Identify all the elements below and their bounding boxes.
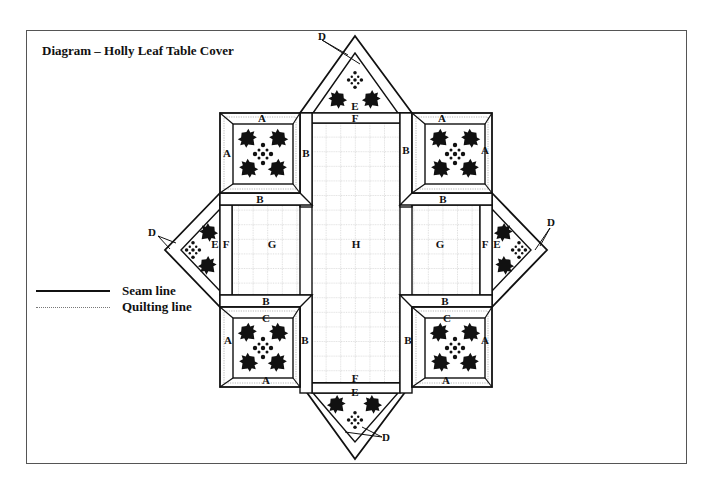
triangle-right (491, 193, 550, 307)
label-a: A (481, 334, 489, 346)
label-h: H (352, 238, 361, 250)
label-d: D (318, 30, 326, 42)
label-b: B (301, 334, 309, 346)
label-g: G (268, 238, 277, 250)
label-b: B (439, 193, 447, 205)
label-a: A (262, 374, 270, 386)
label-b: B (262, 295, 270, 307)
label-f: F (482, 238, 489, 250)
label-f: F (223, 238, 230, 250)
label-a: A (223, 147, 231, 159)
label-b: B (302, 147, 310, 159)
label-b: B (402, 144, 410, 156)
strip-b-left-top (300, 113, 312, 207)
corner-block-top-left (220, 113, 300, 193)
label-a: A (438, 112, 446, 124)
corner-block-bottom-right (412, 307, 492, 387)
strip-b-left-upper (220, 193, 312, 205)
label-e: E (351, 100, 358, 112)
label-b: B (404, 334, 412, 346)
label-d: D (382, 431, 390, 443)
table-cover-diagram: A A B B F E D A A B B F E G H G F E D D … (0, 0, 713, 490)
label-c: C (443, 312, 451, 324)
strip-b-right-top (400, 113, 412, 207)
label-a: A (481, 144, 489, 156)
side-panel-g-left (220, 205, 300, 295)
label-a: A (258, 112, 266, 124)
corner-block-top-right (412, 113, 492, 193)
label-g: G (436, 238, 445, 250)
label-e: E (351, 386, 358, 398)
label-d: D (547, 216, 555, 228)
label-e: E (493, 238, 500, 250)
label-f: F (352, 112, 359, 124)
center-panel-h (312, 123, 400, 383)
label-a: A (224, 334, 232, 346)
corner-block-bottom-left (220, 307, 300, 387)
side-panel-g-right (412, 205, 492, 295)
label-d: D (148, 226, 156, 238)
label-f: F (352, 372, 359, 384)
label-b: B (441, 295, 449, 307)
triangle-left (158, 193, 221, 307)
label-e: E (211, 238, 218, 250)
label-a: A (442, 374, 450, 386)
label-c: C (262, 312, 270, 324)
label-b: B (256, 193, 264, 205)
